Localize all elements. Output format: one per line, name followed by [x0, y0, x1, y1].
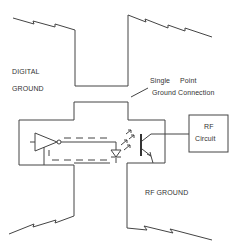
digital-ground-outline [13, 15, 212, 86]
rf-circuit-label-line2: Circuit [195, 135, 216, 142]
single-point-label-b: Point [180, 77, 196, 84]
single-point-label-line2: Ground Connection [152, 89, 214, 96]
light-emission-icon [121, 130, 134, 150]
single-point-pointer [131, 88, 148, 97]
bottom-ground-outline [9, 120, 212, 240]
rf-circuit-label-line1: RF [204, 123, 214, 130]
ground-neck-outline [19, 102, 165, 165]
led-diode-icon [111, 150, 121, 157]
rf-circuit-block: RF Circuit [189, 115, 228, 152]
single-point-label-a: Single [150, 77, 170, 85]
digital-ground-label-line1: DIGITAL [12, 68, 39, 75]
rf-ground-label: RF GROUND [145, 189, 188, 196]
digital-ground-label-line2: GROUND [12, 85, 44, 92]
signal-wire [61, 142, 116, 150]
ground-isolation-diagram: RF Circuit DIGITAL GROUND Single Point G… [0, 0, 239, 250]
